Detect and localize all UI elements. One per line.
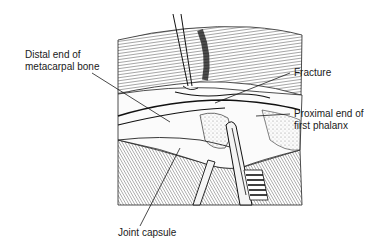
- label-joint-capsule: Joint capsule: [118, 227, 176, 239]
- label-fracture: Fracture: [294, 67, 331, 79]
- anatomical-illustration: Distal end of metacarpal bone Fracture P…: [0, 0, 391, 246]
- upper-skin-flap: [118, 27, 302, 95]
- label-line-2: metacarpal bone: [25, 61, 100, 73]
- label-line-1: Proximal end of: [294, 108, 363, 120]
- label-distal-metacarpal: Distal end of metacarpal bone: [25, 49, 100, 73]
- label-line-1: Distal end of: [25, 49, 100, 61]
- label-proximal-phalanx: Proximal end of first phalanx: [294, 108, 363, 132]
- label-line-2: first phalanx: [294, 120, 363, 132]
